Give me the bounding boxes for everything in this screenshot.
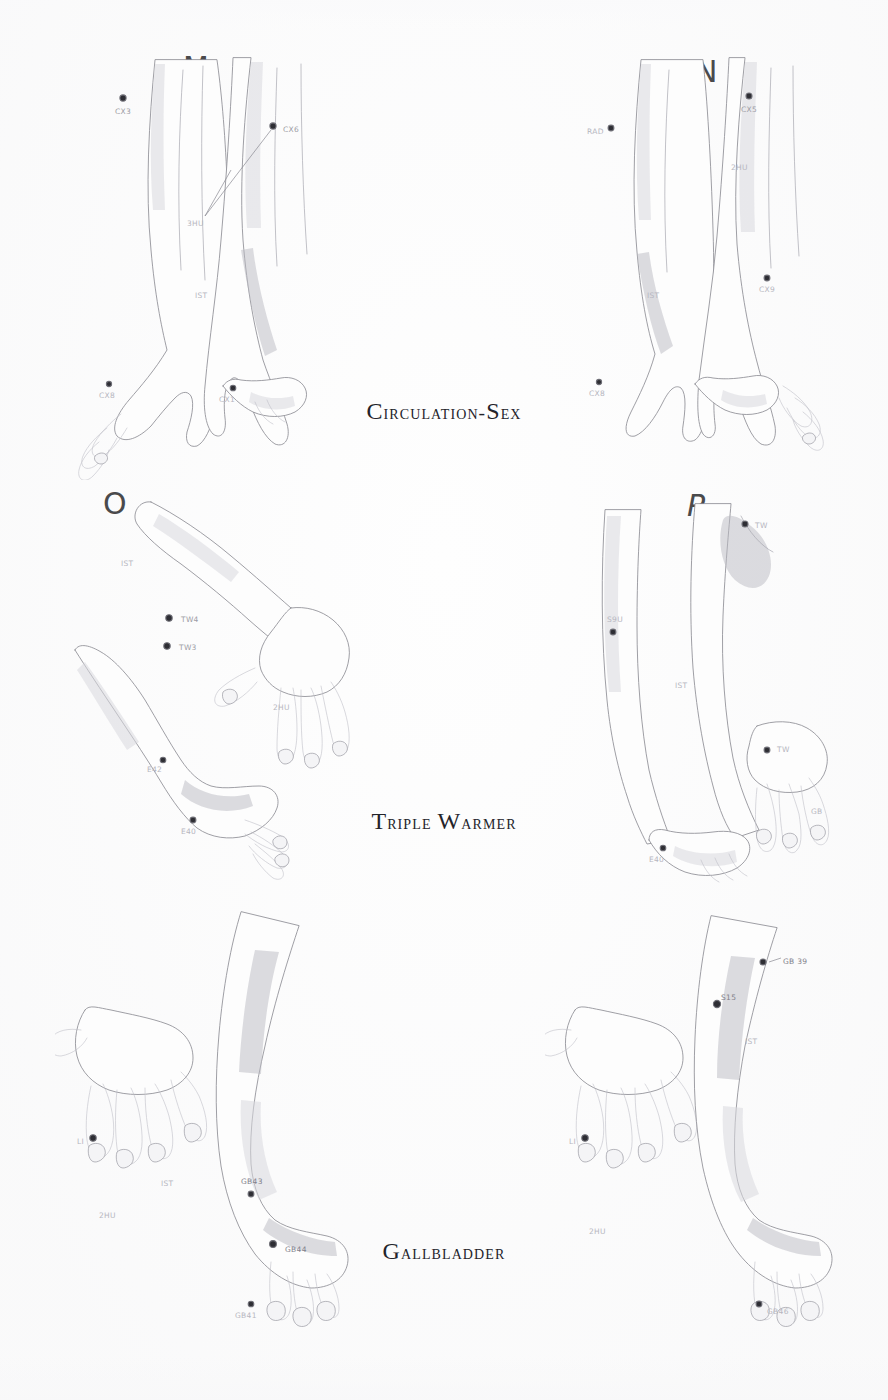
acupoint-label: IST (745, 1037, 758, 1046)
acupoint-marker (596, 379, 601, 384)
acupoint-label: 2HU (589, 1227, 606, 1236)
acupoint-label: IST (195, 291, 208, 300)
panel-r: R (545, 900, 875, 1330)
acupoint-label: IST (161, 1179, 174, 1188)
acupoint-label: CX5 (741, 105, 757, 114)
scan-edge-top (0, 0, 888, 30)
acupoint-label: E42 (147, 765, 162, 774)
acupoint-label: IST (121, 559, 134, 568)
acupoint-marker (756, 1301, 762, 1307)
scanned-page: M (0, 0, 888, 1400)
acupoint-marker (610, 629, 616, 635)
acupoint-label: 2HU (99, 1211, 116, 1220)
label-second-initial: S (486, 398, 500, 424)
acupoint-marker (270, 123, 276, 129)
panel-o: O (55, 480, 385, 900)
label-initial: C (366, 398, 383, 424)
acupoint-label: LI (569, 1137, 576, 1146)
acupoint-marker (760, 959, 766, 965)
label-tail: armer (461, 812, 516, 833)
acupoint-label: 2HU (273, 703, 290, 712)
scan-edge-bottom (0, 1354, 888, 1400)
acupoint-marker (160, 757, 166, 763)
acupoint-marker (660, 845, 666, 851)
acupoint-label: LI (77, 1137, 84, 1146)
acupoint-label: CX9 (759, 285, 775, 294)
acupoint-label: GB43 (241, 1177, 263, 1186)
illustration-o: IST TW4 TW3 2HU E42 E40 (55, 480, 385, 900)
acupoint-label: TW (776, 745, 790, 754)
acupoint-marker (742, 521, 748, 527)
illustration-q: LI IST GB43 GB44 2HU GB41 (55, 900, 385, 1330)
acupoint-marker (713, 1000, 720, 1007)
acupoint-label: CX6 (283, 125, 299, 134)
acupoint-marker (764, 747, 770, 753)
acupoint-label: E40 (649, 855, 664, 864)
meridian-label-triple-warmer: Triple Warmer (0, 808, 888, 835)
acupoint-label: GB 39 (783, 957, 807, 966)
label-initial: T (371, 808, 387, 834)
acupoint-marker (582, 1135, 588, 1141)
meridian-label-circulation-sex: Circulation-Sex (0, 398, 888, 425)
acupoint-label: GB41 (235, 1311, 257, 1320)
panel-q: Q (55, 900, 385, 1330)
label-body: irculation- (384, 402, 487, 423)
illustration-r: GB 39 S15 IST LI 2HU GB46 (545, 900, 875, 1330)
acupoint-marker (248, 1301, 254, 1307)
acupoint-label: CX8 (589, 389, 605, 398)
acupoint-label: S9U (607, 615, 623, 624)
section-circulation-sex: M (0, 40, 888, 480)
acupoint-label: TW3 (178, 643, 197, 652)
acupoint-label: IST (647, 291, 660, 300)
acupoint-label: GB46 (767, 1307, 789, 1316)
acupoint-label: 3HU (187, 219, 204, 228)
acupoint-label: TW (754, 521, 768, 530)
acupoint-marker (746, 93, 752, 99)
acupoint-marker (230, 385, 236, 391)
acupoint-label: S15 (721, 993, 736, 1002)
acupoint-marker (120, 95, 126, 101)
acupoint-label: 2HU (731, 163, 748, 172)
acupoint-marker (764, 275, 770, 281)
label-body: allbladder (401, 1242, 505, 1263)
illustration-p: TW S9U IST TW GB E40 (545, 480, 875, 900)
acupoint-marker (90, 1135, 96, 1141)
section-gallbladder: Q (0, 900, 888, 1330)
meridian-label-gallbladder: Gallbladder (0, 1238, 888, 1265)
acupoint-label: TW4 (180, 615, 199, 624)
acupoint-marker (164, 643, 170, 649)
acupoint-label: IST (675, 681, 688, 690)
label-second-initial: W (438, 808, 462, 834)
panel-p: P (545, 480, 875, 900)
acupoint-marker (166, 615, 172, 621)
label-body: riple (387, 812, 437, 833)
label-initial: G (383, 1238, 401, 1264)
acupoint-marker (248, 1191, 254, 1197)
acupoint-label: CX3 (115, 107, 131, 116)
label-tail: ex (501, 402, 522, 423)
acupoint-marker (106, 381, 111, 386)
acupoint-label: RAD (587, 127, 604, 136)
acupoint-marker (608, 125, 614, 131)
section-triple-warmer: O (0, 480, 888, 900)
